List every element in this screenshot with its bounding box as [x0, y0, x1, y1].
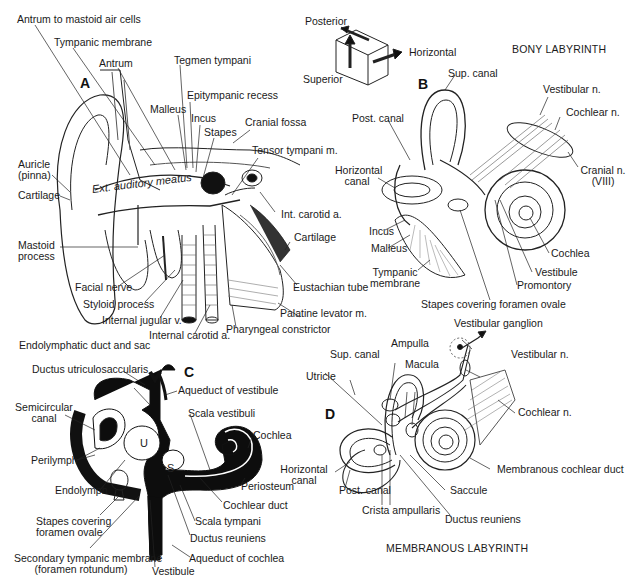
orientation-posterior-label: Posterior — [305, 16, 347, 27]
label-c-foramen-rotundum: (foramen rotundum) — [14, 564, 148, 575]
orientation-horizontal-label: Horizontal — [409, 47, 456, 58]
label-int-carotid-upper: Int. carotid a. — [281, 209, 342, 220]
orientation-cube — [336, 26, 402, 85]
label-tegmen-tympani: Tegmen tympani — [174, 55, 251, 66]
label-cartilage-left: Cartilage — [18, 190, 60, 201]
label-tensor-tympani: Tensor tympani m. — [252, 145, 338, 156]
label-b-membrane: membrane — [370, 278, 420, 289]
ear-anatomy-figure: A B C D Posterior Horizontal Superior BO… — [0, 0, 632, 581]
label-d-ductus-reuniens: Ductus reuniens — [445, 514, 521, 525]
label-b-cochlear-n: Cochlear n. — [566, 107, 620, 118]
label-eustachian-tube: Eustachian tube — [293, 282, 368, 293]
panel-b-drawing — [382, 90, 577, 278]
label-c-aqueduct-vestibule: Aqueduct of vestibule — [178, 385, 278, 396]
label-palatine-levator: Palatine levator m. — [280, 308, 367, 319]
label-c-cochlea: Cochlea — [253, 430, 292, 441]
label-c-aqueduct-cochlea: Aqueduct of cochlea — [189, 553, 284, 564]
label-c-scala-tympani: Scala tympani — [195, 516, 261, 527]
bony-labyrinth-title: BONY LABYRINTH — [512, 43, 606, 55]
label-b-post-canal: Post. canal — [352, 113, 404, 124]
label-d-membranous-cochlear-duct: Membranous cochlear duct — [497, 464, 624, 475]
label-c-ductus-utriculosaccularis: Ductus utriculosaccularis — [32, 364, 148, 375]
label-b-cochlea: Cochlea — [551, 248, 590, 259]
label-b-vestibular-n: Vestibular n. — [543, 84, 601, 95]
label-b-incus: Incus — [369, 226, 394, 237]
label-c-scala-vestibuli: Scala vestibuli — [188, 408, 255, 419]
label-d-utricle: Utricle — [306, 371, 336, 382]
label-tympanic-membrane: Tympanic membrane — [54, 37, 152, 48]
label-c-canal: canal — [15, 413, 73, 424]
label-d-macula: Macula — [405, 359, 439, 370]
label-c-utricle-u: U — [140, 437, 148, 449]
label-internal-jugular: Internal jugular v. — [102, 315, 182, 326]
label-cartilage-right: Cartilage — [294, 232, 336, 243]
label-stapes: Stapes — [204, 127, 237, 138]
label-d-canal: canal — [276, 475, 332, 486]
label-d-post-canal: Post. canal — [339, 485, 391, 496]
label-d-saccule: Saccule — [450, 485, 487, 496]
label-cranial-fossa: Cranial fossa — [245, 117, 306, 128]
label-c-perilymph: Perilymph — [31, 455, 78, 466]
label-pharyngeal-constrictor: Pharyngeal constrictor — [226, 324, 330, 335]
label-b-sup-canal: Sup. canal — [448, 68, 498, 79]
label-c-foramen-ovale: foramen ovale — [36, 527, 103, 538]
orientation-superior-label: Superior — [303, 74, 343, 85]
panel-letter-a: A — [80, 75, 90, 91]
label-antrum-to-mastoid: Antrum to mastoid air cells — [17, 14, 141, 25]
label-b-cranial-viii: (VIII) — [578, 176, 628, 187]
label-b-stapes-foramen-ovale: Stapes covering foramen ovale — [421, 299, 566, 310]
label-c-ductus-reuniens: Ductus reuniens — [190, 533, 266, 544]
label-malleus: Malleus — [150, 104, 186, 115]
panel-letter-b: B — [418, 76, 428, 92]
label-antrum: Antrum — [99, 58, 133, 69]
label-d-cochlear-n: Cochlear n. — [518, 407, 572, 418]
panel-letter-d: D — [325, 406, 335, 422]
membranous-labyrinth-title: MEMBRANOUS LABYRINTH — [386, 542, 528, 554]
label-process: process — [18, 251, 55, 262]
label-c-endolymphatic-duct: Endolymphatic duct and sac — [19, 340, 150, 351]
label-epitympanic-recess: Epitympanic recess — [187, 90, 278, 101]
label-styloid-process: Styloid process — [83, 299, 154, 310]
label-d-vestibular-ganglion: Vestibular ganglion — [454, 318, 543, 329]
label-pinna: (pinna) — [18, 170, 51, 181]
label-b-vestibule: Vestibule — [535, 267, 578, 278]
label-d-ampulla: Ampulla — [391, 338, 429, 349]
label-internal-carotid: Internal carotid a. — [149, 330, 230, 341]
label-d-vestibular-n: Vestibular n. — [511, 349, 569, 360]
label-d-crista-ampullaris: Crista ampullaris — [362, 505, 440, 516]
panel-letter-c: C — [184, 364, 194, 380]
label-c-cochlear-duct: Cochlear duct — [223, 500, 288, 511]
label-b-canal: canal — [335, 176, 379, 187]
label-b-malleus: Malleus — [371, 243, 407, 254]
label-c-endolymph: Endolymph — [55, 485, 108, 496]
label-d-sup-canal: Sup. canal — [330, 349, 380, 360]
label-incus: Incus — [191, 113, 216, 124]
label-facial-nerve: Facial nerve — [75, 282, 132, 293]
label-c-vestibule: Vestibule — [152, 566, 195, 577]
label-c-saccule-s: S — [167, 462, 174, 474]
label-b-promontory: Promontory — [517, 280, 571, 291]
